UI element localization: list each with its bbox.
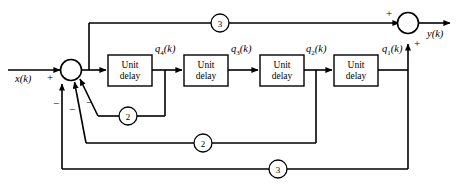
gain-label-2-upper: 2: [119, 112, 137, 122]
unit-delay-label-4: Unit delay: [108, 60, 152, 81]
summing-junction-output-circle: [398, 13, 419, 34]
gain-label-2-lower: 2: [194, 139, 212, 149]
unit-delay-label-1: Unit delay: [334, 60, 378, 81]
sign-output-plus-1: +: [386, 8, 392, 19]
summing-junction-input-circle: [61, 60, 82, 81]
unit-delay-label-2-line2: delay: [260, 71, 304, 82]
wire-fb2-lower-diagonal: [75, 82, 87, 143]
unit-delay-label-4-line1: Unit: [108, 60, 152, 71]
sign-input-minus-3: −: [86, 97, 92, 108]
input-signal-label: x(k): [15, 74, 31, 85]
unit-delay-label-1-line1: Unit: [334, 60, 378, 71]
signal-label-q4: q4(k): [155, 44, 175, 57]
unit-delay-label-3-line1: Unit: [184, 60, 228, 71]
unit-delay-label-3-line2: delay: [184, 71, 228, 82]
sign-input-plus: +: [47, 72, 53, 83]
unit-delay-label-2-line1: Unit: [260, 60, 304, 71]
sign-output-plus-2: +: [414, 38, 420, 49]
unit-delay-label-4-line2: delay: [108, 71, 152, 82]
gain-label-top-3: 3: [211, 19, 229, 29]
signal-label-q1: q1(k): [382, 44, 402, 57]
unit-delay-label-2: Unit delay: [260, 60, 304, 81]
block-diagram: Unit delay Unit delay Unit delay Unit de…: [0, 0, 457, 184]
signal-label-q3: q3(k): [231, 44, 251, 57]
unit-delay-label-3: Unit delay: [184, 60, 228, 81]
sign-input-minus-2: −: [69, 104, 75, 115]
gain-label-bottom-3: 3: [269, 165, 287, 175]
sign-input-minus-1: −: [53, 98, 59, 109]
unit-delay-label-1-line2: delay: [334, 71, 378, 82]
output-signal-label: y(k): [427, 29, 443, 40]
signal-label-q2: q2(k): [306, 44, 326, 57]
